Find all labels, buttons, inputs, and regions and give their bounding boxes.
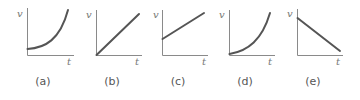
x-axis-label: t [67,56,72,67]
panel-d: v t (d) [219,9,275,88]
panel-label: (d) [237,75,253,88]
panel-b: v t (b) [86,9,142,88]
panel-label: (a) [35,75,50,88]
x-axis-label: t [135,56,140,67]
panel-a: v t (a) [17,8,74,88]
x-axis-label: t [336,56,341,67]
velocity-line [163,13,205,39]
velocity-curve [230,13,271,54]
x-axis-label: t [268,56,273,67]
y-axis-label: v [219,9,225,20]
y-axis-label: v [153,9,159,20]
y-axis-label: v [287,8,293,19]
y-axis-label: v [86,9,92,20]
panel-label: (e) [305,75,320,88]
velocity-line [97,14,140,55]
velocity-curve [28,10,69,49]
y-axis-label: v [17,8,23,19]
velocity-line [298,18,341,51]
x-axis-label: t [202,56,207,67]
velocity-time-graphs-figure: v t (a) v t (b) v t (c) v t (d) v t (e) [0,0,360,100]
panel-c: v t (c) [153,9,208,88]
panel-label: (b) [104,75,120,88]
panel-e: v t (e) [287,8,343,88]
panel-label: (c) [171,75,186,88]
